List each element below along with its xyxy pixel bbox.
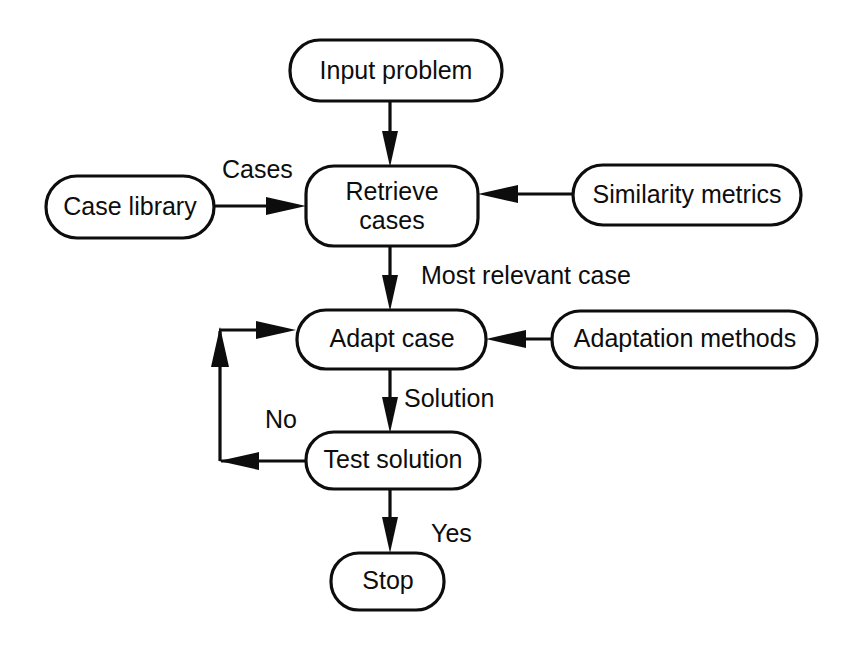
edge-label-most-relevant-case: Most relevant case (421, 261, 631, 289)
node-similarity-metrics[interactable]: Similarity metrics (573, 165, 801, 225)
node-stop[interactable]: Stop (331, 553, 444, 610)
node-retrieve-cases-label-line2: cases (359, 206, 424, 234)
edge-test-to-adapt-loop-no (211, 321, 306, 470)
node-adaptation-methods[interactable]: Adaptation methods (552, 311, 817, 368)
node-test-solution-label: Test solution (324, 445, 463, 473)
node-adapt-case-label: Adapt case (329, 324, 454, 352)
flowchart-svg: Input problem Case library Retrieve case… (0, 0, 851, 650)
node-retrieve-cases-label-line1: Retrieve (345, 177, 438, 205)
node-adaptation-methods-label: Adaptation methods (574, 324, 796, 352)
edge-caselibrary-to-retrieve (214, 197, 306, 215)
edge-label-solution: Solution (404, 384, 494, 412)
node-case-library-label: Case library (63, 192, 197, 220)
node-retrieve-cases[interactable]: Retrieve cases (306, 166, 478, 246)
edge-adapt-to-test (382, 369, 398, 433)
node-input-problem[interactable]: Input problem (290, 40, 502, 101)
edge-input-to-retrieve (382, 101, 398, 167)
edge-label-no: No (265, 405, 297, 433)
edge-retrieve-to-adapt (382, 246, 398, 311)
edge-label-yes: Yes (431, 519, 472, 547)
edge-similarity-to-retrieve (478, 185, 573, 203)
node-test-solution[interactable]: Test solution (306, 432, 480, 489)
edge-adaptationmethods-to-adapt (486, 330, 552, 348)
edge-label-cases: Cases (222, 155, 293, 183)
node-adapt-case[interactable]: Adapt case (297, 310, 486, 369)
node-input-problem-label: Input problem (320, 56, 473, 84)
node-case-library[interactable]: Case library (46, 176, 214, 238)
flowchart-canvas: Input problem Case library Retrieve case… (0, 0, 851, 650)
edge-test-to-stop-yes (382, 489, 398, 553)
node-similarity-metrics-label: Similarity metrics (593, 180, 782, 208)
node-stop-label: Stop (362, 566, 413, 594)
